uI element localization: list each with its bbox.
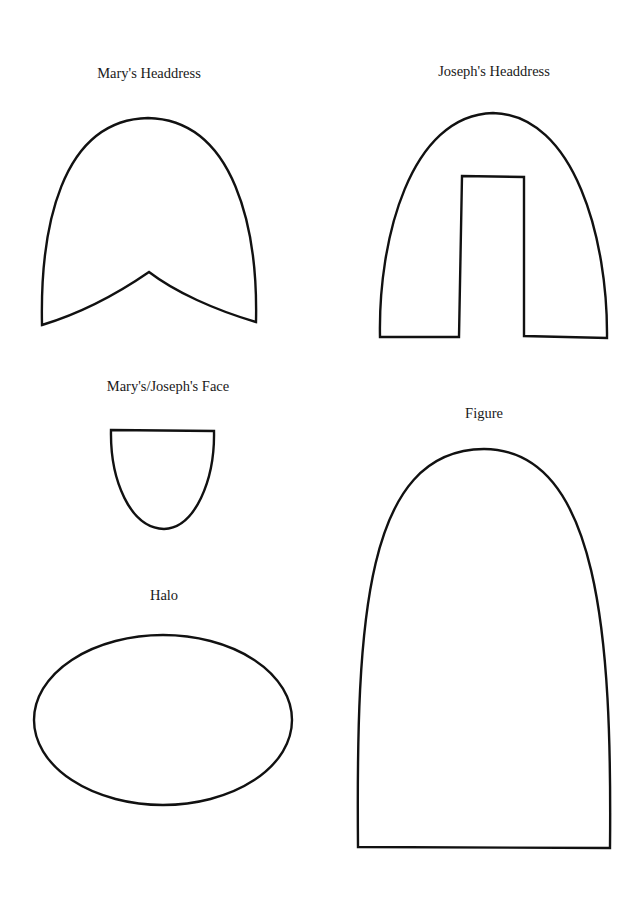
halo-shape bbox=[34, 635, 292, 805]
face-shape bbox=[111, 430, 214, 529]
template-shapes bbox=[0, 0, 630, 899]
josephs-headdress-shape bbox=[380, 113, 607, 338]
marys-headdress-shape bbox=[42, 118, 256, 325]
figure-shape bbox=[358, 449, 610, 848]
